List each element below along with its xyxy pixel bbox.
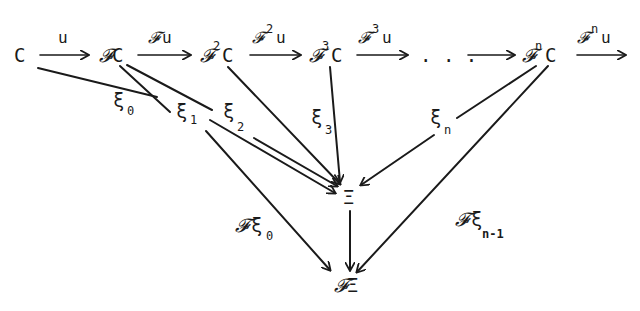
svg-text:Ξ: Ξ [347,274,358,296]
edge-FC-xi2-upper [127,65,212,110]
svg-text:u: u [162,28,172,47]
svg-text:ξ: ξ [251,214,262,236]
node-F3C: 𝓕 3 C [309,39,342,66]
svg-text:ξ: ξ [223,100,234,122]
node-C: C [14,44,25,66]
label-xi0: ξ 0 [113,89,134,118]
arrow-label-Fnu: 𝓕 n u [577,22,611,47]
svg-text:n-1: n-1 [482,227,504,241]
arrow-label-u: u [58,28,68,47]
node-FC: 𝓕 C [99,44,123,66]
label-Fxi0: 𝓕 ξ 0 [235,214,273,243]
node-F2C: 𝓕 2 C [200,39,233,66]
svg-text:ξ: ξ [311,106,322,128]
svg-text:C: C [112,44,123,66]
arrow-label-F2u: 𝓕 2 u [252,22,286,47]
label-xin: ξ n [430,106,451,137]
svg-text:n: n [444,123,451,137]
svg-text:2: 2 [266,22,273,36]
svg-text:3: 3 [372,22,379,36]
svg-text:ξ: ξ [471,208,482,230]
svg-text:0: 0 [266,229,273,243]
node-Xi: Ξ [343,186,354,208]
arrow-label-F3u: 𝓕 3 u [358,22,392,47]
svg-text:ξ: ξ [176,100,187,122]
svg-text:2: 2 [213,39,220,53]
arrow-label-Fu: 𝓕 u [148,28,172,47]
svg-text:C: C [545,44,556,66]
edge-xi2-to-Xi [254,138,337,186]
node-FnC: 𝓕 n C [522,39,556,66]
svg-text:ξ: ξ [430,106,441,128]
svg-text:1: 1 [190,113,197,127]
colimit-cocone-diagram: C 𝓕 C 𝓕 2 C 𝓕 3 C . . . 𝓕 n C u 𝓕 u 𝓕 2 … [0,0,640,311]
svg-text:u: u [382,28,392,47]
label-Fxin-1: 𝓕 ξ n-1 [455,208,504,241]
svg-text:u: u [601,28,611,47]
svg-text:3: 3 [322,39,329,53]
svg-text:C: C [222,44,233,66]
svg-text:0: 0 [127,104,134,118]
edge-xi2-F2C-to-Xi [228,67,340,184]
svg-text:ξ: ξ [113,89,124,111]
label-xi1: ξ 1 [176,100,197,127]
node-FXi: 𝓕 Ξ [334,274,358,296]
svg-text:3: 3 [325,123,332,137]
svg-text:n: n [535,39,542,53]
edge-Fxi0-to-FXi [206,131,330,270]
label-xi3: ξ 3 [311,106,332,137]
svg-text:2: 2 [237,120,244,134]
svg-text:C: C [331,44,342,66]
edge-xin-to-Xi [361,135,434,185]
svg-text:u: u [276,28,286,47]
svg-text:n: n [591,22,598,36]
